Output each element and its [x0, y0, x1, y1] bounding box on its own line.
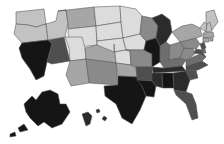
state-RI[interactable]	[210, 38, 213, 41]
state-CT[interactable]	[203, 38, 209, 42]
choropleth-map-figure	[0, 0, 224, 144]
us-choropleth-svg	[0, 0, 224, 144]
state-AL[interactable]	[162, 73, 174, 88]
state-MA[interactable]	[203, 32, 214, 38]
state-AR[interactable]	[136, 67, 152, 81]
state-AZ[interactable]	[66, 59, 89, 86]
state-IN[interactable]	[160, 42, 170, 62]
state-NM[interactable]	[86, 59, 118, 85]
state-OR[interactable]	[14, 24, 48, 43]
